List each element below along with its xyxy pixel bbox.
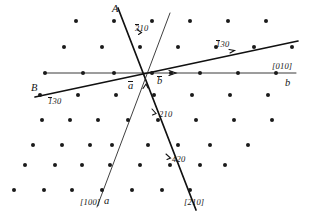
lattice-point xyxy=(38,93,42,97)
label-index-310-rest: 10 xyxy=(139,23,148,33)
lattice-point xyxy=(70,188,74,192)
lattice-diagram-canvas xyxy=(0,0,310,217)
lattice-point xyxy=(112,19,116,23)
lattice-point xyxy=(208,143,212,147)
lattice-point xyxy=(96,118,100,122)
label-axis-a-bar-text: a xyxy=(128,81,133,92)
lattice-point xyxy=(190,93,194,97)
zone-line-B-130 xyxy=(35,41,298,97)
label-axis-a: a xyxy=(104,196,109,207)
lattice-point xyxy=(160,188,164,192)
label-axis-b-bar: b xyxy=(157,76,162,87)
zone-420-arrow-mark xyxy=(166,154,171,160)
lattice-point xyxy=(290,45,294,49)
lattice-point xyxy=(146,143,150,147)
lattice-point xyxy=(31,143,35,147)
lattice-point xyxy=(130,188,134,192)
lattice-point xyxy=(198,71,202,75)
lattice-point xyxy=(108,163,112,167)
label-direction-210: [210] xyxy=(184,198,204,207)
lattice-point xyxy=(194,118,198,122)
lattice-point xyxy=(226,19,230,23)
label-axis-b-bar-text: b xyxy=(157,76,162,87)
lattice-point xyxy=(100,188,104,192)
lattice-point xyxy=(274,71,278,75)
lattice-point xyxy=(150,19,154,23)
lattice-point xyxy=(188,19,192,23)
zone-B-right-arrow-mark xyxy=(229,50,235,54)
zone-line-A-310 xyxy=(118,8,196,210)
lattice-point xyxy=(138,163,142,167)
lattice-point xyxy=(126,118,130,122)
lattice-point xyxy=(188,188,192,192)
lattice-point xyxy=(150,71,154,75)
lattice-point xyxy=(100,45,104,49)
lattice-point xyxy=(42,188,46,192)
label-direction-010: [010] xyxy=(272,62,292,71)
lattice-point xyxy=(74,19,78,23)
lattice-point xyxy=(236,71,240,75)
lattice-point xyxy=(252,45,256,49)
label-index-130-right-rest: 30 xyxy=(220,39,229,49)
lattice-point xyxy=(152,93,156,97)
lattice-point xyxy=(138,45,142,49)
lattice-point xyxy=(53,163,57,167)
lattice-point xyxy=(198,163,202,167)
lattice-point xyxy=(81,71,85,75)
label-axis-b: b xyxy=(285,78,290,89)
lattice-point xyxy=(223,163,227,167)
lattice-point xyxy=(176,143,180,147)
label-direction-100: [100] xyxy=(80,198,100,207)
lattice-point xyxy=(112,71,116,75)
lattice-point xyxy=(60,143,64,147)
lattice-point xyxy=(270,118,274,122)
lattice-point xyxy=(228,93,232,97)
zone-210-arrow-mark xyxy=(152,109,156,115)
lattice-point xyxy=(114,93,118,97)
lattice-point xyxy=(232,118,236,122)
lattice-point xyxy=(246,143,250,147)
label-index-130-left-rest: 30 xyxy=(52,96,61,106)
label-index-130-left: 130 xyxy=(48,97,61,106)
lattice-point xyxy=(88,143,92,147)
label-axis-a-bar: a xyxy=(128,81,133,92)
lattice-point xyxy=(266,93,270,97)
lattice-point xyxy=(62,45,66,49)
lattice-point xyxy=(43,71,47,75)
lattice-point xyxy=(264,19,268,23)
label-index-130-left-bar: 1 xyxy=(48,97,52,106)
lattice-point xyxy=(110,143,114,147)
label-line-B: B xyxy=(31,83,38,94)
label-index-310: 310 xyxy=(135,24,148,33)
lattice-figure: A 310 130 [010] b B 130 a b 210 420 [100… xyxy=(0,0,310,217)
lattice-point xyxy=(176,45,180,49)
label-index-130-right: 130 xyxy=(216,40,229,49)
label-index-310-bar: 3 xyxy=(135,24,139,33)
lattice-point xyxy=(169,71,173,75)
label-index-420: 420 xyxy=(172,155,185,164)
lattice-point xyxy=(76,93,80,97)
lattice-point xyxy=(68,118,72,122)
lattice-point xyxy=(80,163,84,167)
label-index-130-right-bar: 1 xyxy=(216,40,220,49)
label-index-210: 210 xyxy=(159,110,172,119)
label-line-A: A xyxy=(112,4,119,15)
lattice-point xyxy=(40,118,44,122)
lattice-point xyxy=(12,188,16,192)
lattice-point xyxy=(23,163,27,167)
